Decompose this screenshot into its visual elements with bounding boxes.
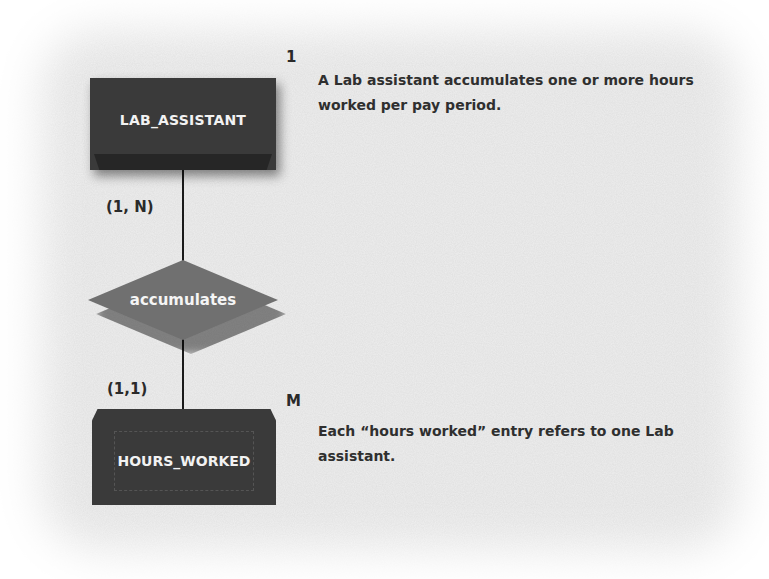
- relationship-accumulates[interactable]: accumulates: [88, 260, 278, 340]
- entity-label: HOURS_WORKED: [117, 453, 250, 469]
- relationship-label: accumulates: [130, 291, 236, 309]
- entity-label: LAB_ASSISTANT: [120, 112, 246, 128]
- cardinality-one-marker: 1: [286, 48, 296, 66]
- cardinality-many-marker: M: [286, 392, 301, 410]
- description-top: A Lab assistant accumulates one or more …: [318, 68, 708, 118]
- entity-lab-assistant[interactable]: LAB_ASSISTANT: [90, 78, 276, 170]
- participation-hours-worked: (1,1): [107, 380, 147, 398]
- description-bottom: Each “hours worked” entry refers to one …: [318, 419, 708, 469]
- connector-line-top: [182, 170, 184, 266]
- entity-hours-worked[interactable]: HOURS_WORKED: [92, 409, 276, 505]
- entity-base-bevel: [94, 154, 272, 170]
- participation-lab-assistant: (1, N): [106, 198, 154, 216]
